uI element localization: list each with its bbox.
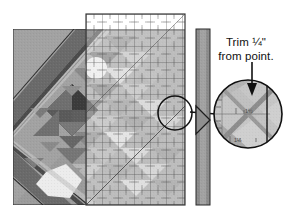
quilt-illustration: 1½ 1¼: [0, 0, 297, 218]
caption-line-1: Trim ¼": [226, 36, 266, 48]
figure-canvas: 1½ 1¼ Trim ¼" from point.: [0, 0, 297, 218]
acrylic-ruler: [86, 14, 185, 205]
caption-line-2: from point.: [196, 50, 296, 64]
trim-instruction-caption: Trim ¼" from point.: [196, 36, 296, 63]
